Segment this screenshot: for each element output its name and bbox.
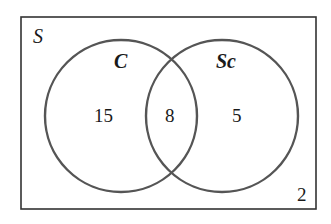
c-only-count: 15 — [94, 105, 113, 126]
intersection-count: 8 — [165, 105, 175, 126]
venn-diagram: S C Sc 15 8 5 2 — [0, 0, 331, 224]
outside-count: 2 — [297, 184, 307, 205]
set-sc-label: Sc — [216, 50, 236, 72]
set-c-label: C — [114, 50, 128, 72]
sc-only-count: 5 — [232, 105, 242, 126]
universe-label: S — [33, 25, 43, 47]
